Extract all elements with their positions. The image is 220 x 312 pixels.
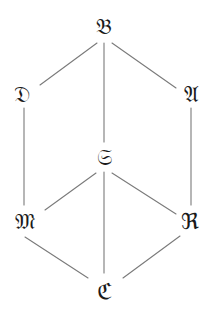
edge-m-e bbox=[25, 237, 88, 278]
node-e: ℭ bbox=[89, 278, 119, 306]
edge-b-a bbox=[112, 43, 176, 88]
node-s: 𝔖 bbox=[89, 144, 119, 172]
edge-b-d bbox=[40, 43, 97, 85]
lattice-diagram: 𝔅 𝔇 𝔄 𝔖 𝔐 ℜ ℭ bbox=[0, 0, 220, 312]
node-b: 𝔅 bbox=[89, 13, 119, 41]
edge-s-m bbox=[45, 173, 96, 210]
node-m: 𝔐 bbox=[10, 208, 40, 236]
edge-s-r bbox=[112, 173, 176, 214]
node-a: 𝔄 bbox=[176, 81, 206, 109]
edge-r-e bbox=[123, 236, 180, 278]
node-r: ℜ bbox=[175, 208, 205, 236]
node-d: 𝔇 bbox=[7, 81, 37, 109]
